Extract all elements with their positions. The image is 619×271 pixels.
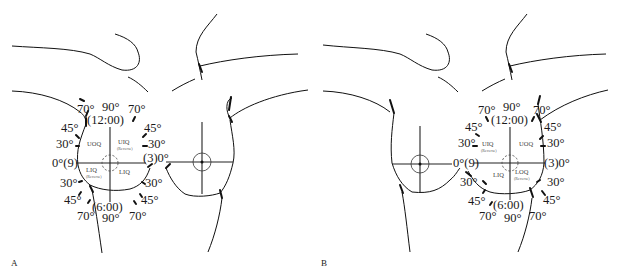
clock-12-label-b: (12:00) [491, 113, 528, 127]
angle-45-lower-right-b: 45° [543, 193, 561, 207]
angle-90-bottom-b: 90° [504, 211, 522, 225]
angle-30-lower-right-b: 30° [547, 175, 565, 189]
left-breast-outline-a [77, 124, 150, 190]
left-shoulder-outline [12, 34, 139, 70]
angle-45-lower-left-b: 45° [468, 194, 486, 208]
angle-45-upper-right-a: 45° [144, 121, 162, 135]
left-breast-lower-fold-b [400, 185, 403, 193]
quadrant-upper-right-a: UIQ [118, 138, 130, 145]
clock-ticks-b [473, 117, 545, 205]
angle-45-upper-left-a: 45° [61, 121, 79, 135]
right-shoulder-outline-b [506, 14, 527, 80]
quadrant-lower-right-note-b: (Reverse) [514, 176, 530, 181]
angle-30-upper-left-b: 30° [458, 136, 476, 150]
angle-30-lower-right-a: 30° [145, 176, 163, 190]
right-shoulder-outline [196, 14, 217, 80]
clock-3-label-a: (3)0° [143, 151, 169, 165]
angle-30-lower-left-b: 30° [460, 175, 478, 189]
angle-45-upper-right-b: 45° [544, 120, 562, 134]
left-breast-outline-b [391, 113, 460, 193]
angle-70-top-right-b: 70° [533, 103, 551, 117]
left-neck-outline [128, 77, 148, 92]
right-breast-lower-fold-b [530, 188, 533, 197]
left-shoulder-outline-b [323, 34, 449, 70]
quadrant-lower-left-b: LIQ [493, 171, 504, 178]
left-nipple-dot-b [419, 163, 422, 166]
angle-90-bottom-a: 90° [102, 211, 120, 225]
angle-70-bottom-right-a: 70° [129, 209, 147, 223]
clock-6-label-b: (6:00) [493, 198, 524, 212]
angle-30-lower-left-a: 30° [60, 176, 78, 190]
right-nipple-dot-a [201, 161, 204, 164]
quadrant-upper-left-b: UIQ [482, 140, 494, 147]
clock-9-label-b: 0°(9) [453, 156, 479, 170]
left-breast-upper-fold-b [390, 100, 394, 113]
angle-90-top-b: 90° [503, 100, 521, 114]
angle-90-top-a: 90° [102, 100, 120, 114]
quadrant-lower-left-note-a: (Reverse) [86, 174, 102, 179]
breast-localization-diagram: 70° 90° 70° (12:00) 45° 45° 30° 30° 0°(9… [0, 0, 619, 271]
right-lower-torso-a [208, 198, 222, 252]
angle-70-bottom-right-b: 70° [529, 209, 547, 223]
panel-label-b: B [321, 258, 327, 268]
right-collar-outline [200, 54, 298, 66]
angle-30-upper-right-b: 30° [547, 136, 565, 150]
right-neck-outline-b [482, 79, 505, 91]
quadrant-lower-left-a: LIQ [86, 166, 97, 173]
clock-12-label-a: (12:00) [87, 113, 124, 127]
quadrant-upper-left-a: UOQ [87, 140, 101, 147]
quadrant-upper-right-b: UOQ [519, 140, 533, 147]
quadrant-upper-left-note-b: (Reverse) [481, 148, 497, 153]
quadrant-lower-right-a: LIQ [119, 168, 130, 175]
left-torso-outline [12, 91, 86, 124]
angle-30-upper-left-a: 30° [56, 137, 74, 151]
angle-70-top-right-a: 70° [128, 102, 146, 116]
right-breast-outline-a [166, 120, 234, 196]
left-lower-torso-b [402, 192, 410, 252]
right-collar-outline-b [510, 54, 606, 66]
quadrant-upper-right-note-a: (Reverse) [117, 146, 133, 151]
panel-label-a: A [11, 258, 18, 268]
angle-45-upper-left-b: 45° [465, 120, 483, 134]
panel-b: 70° 90° 70° (12:00) 45° 45° 30° 30° 0°(9… [321, 14, 608, 268]
panel-a: 70° 90° 70° (12:00) 45° 45° 30° 30° 0°(9… [11, 14, 308, 268]
angle-45-lower-right-a: 45° [141, 193, 159, 207]
left-breast-upper-fold [80, 99, 84, 101]
left-neck-outline-b [438, 77, 458, 92]
angle-70-bottom-left-b: 70° [479, 209, 497, 223]
angle-45-lower-left-a: 45° [64, 193, 82, 207]
clock-3-label-b: (3)0° [544, 156, 570, 170]
angle-30-upper-right-a: 30° [148, 137, 166, 151]
left-torso-outline-b [323, 91, 390, 112]
right-neck-outline [172, 79, 195, 91]
right-torso-outline-a [227, 90, 308, 118]
angle-70-bottom-left-a: 70° [77, 209, 95, 223]
clock-9-label-a: 0°(9) [52, 156, 78, 170]
quadrant-lower-right-b: LOQ [515, 168, 529, 175]
